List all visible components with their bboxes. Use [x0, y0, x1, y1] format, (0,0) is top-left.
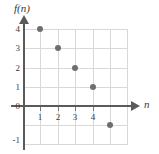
- x-tick-label-group: 1 2 3 4: [0, 0, 159, 154]
- x-tick-label: 2: [51, 113, 65, 122]
- x-tick-mark: [58, 107, 59, 111]
- x-tick-label: 4: [86, 113, 100, 122]
- scatter-plot-figure: f(n) n 4 3 2 1 0 -1 1 2 3 4: [0, 0, 159, 154]
- x-tick-label: 3: [68, 113, 82, 122]
- x-tick-mark: [40, 107, 41, 111]
- x-tick-mark: [93, 107, 94, 111]
- x-tick-label: 1: [33, 113, 47, 122]
- x-tick-mark: [75, 107, 76, 111]
